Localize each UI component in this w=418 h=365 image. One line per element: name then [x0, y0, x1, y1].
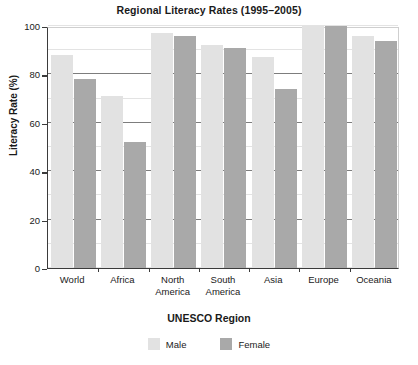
bar-oceania-female [375, 41, 397, 268]
x-axis-tick-mark [98, 268, 99, 272]
legend-swatch-icon [148, 338, 160, 350]
legend-item-female[interactable]: Female [220, 338, 270, 350]
bar-group [48, 28, 98, 268]
x-axis-tick-mark [199, 268, 200, 272]
bar-asia-female [275, 89, 297, 268]
bars-layer [48, 28, 398, 268]
y-axis-tick-label: 80 [10, 69, 40, 80]
bar-africa-male [101, 96, 123, 268]
x-axis-tick-label: Europe [298, 274, 348, 286]
bar-group [98, 28, 148, 268]
y-axis-tick-label: 0 [10, 263, 40, 274]
y-axis-tick-labels: 020406080100 [0, 27, 40, 269]
bar-north-america-female [174, 36, 196, 268]
x-axis-tick-label: SouthAmerica [198, 274, 248, 297]
legend-item-male[interactable]: Male [148, 338, 187, 350]
x-axis-tick-label: World [47, 274, 97, 286]
bar-group [199, 28, 249, 268]
y-axis-tick-label: 100 [10, 21, 40, 32]
x-axis-tick-label: Oceania [349, 274, 399, 286]
bar-group [249, 28, 299, 268]
bar-oceania-male [352, 36, 374, 268]
x-axis-tick-label: Africa [97, 274, 147, 286]
x-axis-tick-label: Asia [248, 274, 298, 286]
x-axis-tick-labels: WorldAfricaNorthAmericaSouthAmericaAsiaE… [47, 274, 399, 308]
bar-world-female [74, 79, 96, 268]
x-axis-tick-label: NorthAmerica [148, 274, 198, 297]
bar-asia-male [252, 57, 274, 268]
bar-north-america-male [151, 33, 173, 268]
x-axis-title: UNESCO Region [0, 312, 418, 324]
y-axis-tick-label: 60 [10, 118, 40, 129]
chart-title: Regional Literacy Rates (1995–2005) [0, 4, 418, 16]
bar-world-male [51, 55, 73, 268]
x-axis-tick-mark [149, 268, 150, 272]
y-axis-tick-label: 40 [10, 166, 40, 177]
bar-group [149, 28, 199, 268]
legend-swatch-icon [220, 338, 232, 350]
bar-group [299, 28, 349, 268]
bar-europe-female [325, 26, 347, 268]
y-axis-tick-mark [42, 269, 47, 270]
legend-label: Female [238, 339, 270, 350]
bar-south-america-female [224, 48, 246, 268]
bar-africa-female [124, 142, 146, 268]
chart-figure: Regional Literacy Rates (1995–2005) Lite… [0, 0, 418, 365]
y-axis-tick-label: 20 [10, 215, 40, 226]
x-axis-tick-mark [249, 268, 250, 272]
bar-south-america-male [201, 45, 223, 268]
x-axis-tick-mark [350, 268, 351, 272]
chart-legend: MaleFemale [0, 338, 418, 350]
x-axis-tick-mark [299, 268, 300, 272]
plot-area [47, 27, 399, 269]
bar-europe-male [302, 26, 324, 268]
legend-label: Male [166, 339, 187, 350]
bar-group [350, 28, 400, 268]
